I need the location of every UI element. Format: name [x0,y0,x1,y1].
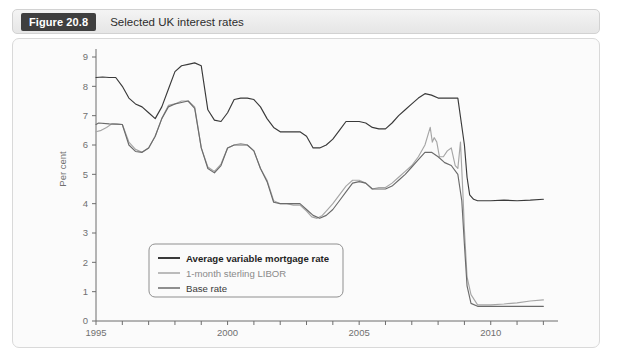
y-axis-title: Per cent [57,151,68,187]
line-chart: 01234567891995200020052010Per cent Avera… [13,39,600,348]
y-tick-label: 1 [83,286,88,297]
chart-card: 01234567891995200020052010Per cent Avera… [12,38,600,348]
chart-legend: Average variable mortgage rate1-month st… [149,244,343,297]
y-tick-label: 5 [83,169,88,180]
x-tick-label: 2010 [480,327,501,338]
legend-label-2: Base rate [186,283,227,294]
y-tick-label: 4 [83,198,88,209]
y-tick-label: 6 [83,139,88,150]
figure-number-badge: Figure 20.8 [21,13,96,31]
figure-caption: Selected UK interest rates [110,16,244,28]
x-tick-label: 1995 [85,327,106,338]
series-line-0 [96,63,543,201]
figure-page: Figure 20.8 Selected UK interest rates 0… [0,0,622,361]
figure-header: Figure 20.8 Selected UK interest rates [12,9,600,34]
plot-area: 01234567891995200020052010Per cent Avera… [13,39,599,347]
y-tick-label: 3 [83,227,88,238]
legend-label-0: Average variable mortgage rate [186,253,329,264]
y-tick-label: 9 [83,51,88,62]
y-tick-label: 8 [83,81,88,92]
y-tick-label: 2 [83,257,88,268]
y-tick-label: 7 [83,110,88,121]
y-tick-label: 0 [83,315,88,326]
legend-label-1: 1-month sterling LIBOR [186,268,286,279]
x-tick-label: 2000 [217,327,238,338]
x-tick-label: 2005 [349,327,370,338]
